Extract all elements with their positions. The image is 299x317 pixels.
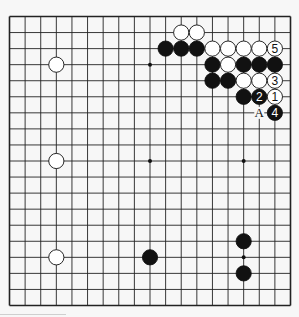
white-stone: [49, 153, 64, 168]
move-number-label: 3: [272, 74, 279, 88]
white-stone: [174, 25, 189, 40]
black-stone: [236, 266, 251, 281]
black-stone: 2: [252, 89, 267, 104]
white-stone: 3: [267, 73, 282, 88]
white-stone: [49, 57, 64, 72]
black-stone: [174, 41, 189, 56]
move-number-label: 2: [256, 90, 263, 104]
white-stone: [205, 41, 220, 56]
black-stone: [252, 57, 267, 72]
black-stone: [220, 73, 235, 88]
caption-divider: [0, 314, 66, 315]
go-board-diagram: 53214 A: [0, 0, 299, 317]
black-stone: [205, 73, 220, 88]
white-stone: [236, 41, 251, 56]
black-stone: [267, 57, 282, 72]
point-marker-label: A: [255, 105, 265, 120]
move-number-label: 1: [272, 90, 279, 104]
white-stone: [49, 250, 64, 265]
white-stone: [220, 57, 235, 72]
white-stone: [252, 41, 267, 56]
white-stone: [189, 25, 204, 40]
star-point-icon: [148, 63, 152, 67]
star-point-icon: [242, 159, 246, 163]
white-stone: [252, 73, 267, 88]
black-stone: [189, 41, 204, 56]
black-stone: [158, 41, 173, 56]
star-point-icon: [148, 159, 152, 163]
move-number-label: 4: [272, 106, 279, 120]
star-point-icon: [242, 255, 246, 259]
black-stone: [142, 250, 157, 265]
white-stone: 1: [267, 89, 282, 104]
black-stone: [236, 89, 251, 104]
white-stone: [236, 73, 251, 88]
markers-layer: A: [254, 105, 264, 120]
black-stone: [236, 57, 251, 72]
go-board: 53214 A: [0, 0, 299, 317]
black-stone: [205, 57, 220, 72]
move-number-label: 5: [272, 42, 279, 56]
black-stone: 4: [267, 105, 282, 120]
black-stone: [236, 234, 251, 249]
white-stone: 5: [267, 41, 282, 56]
white-stone: [220, 41, 235, 56]
